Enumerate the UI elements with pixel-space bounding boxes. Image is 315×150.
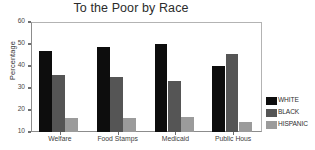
legend-label-hispanic: HISPANIC xyxy=(278,120,308,127)
x-axis-label-welfare: Welfare xyxy=(30,135,90,142)
bar-black-medicaid xyxy=(168,81,181,132)
bar-group xyxy=(97,22,137,132)
bar-white-medicaid xyxy=(155,44,168,132)
legend-swatch-black xyxy=(266,109,277,117)
bars-layer xyxy=(31,22,262,132)
bar-hispanic-welfare xyxy=(65,118,78,132)
legend-label-black: BLACK xyxy=(278,108,299,115)
bar-group xyxy=(155,22,195,132)
legend-label-white: WHITE xyxy=(278,96,299,103)
bar-white-welfare xyxy=(39,51,52,132)
legend-swatch-hispanic xyxy=(266,121,277,129)
y-tick-label: 10 xyxy=(9,127,25,134)
bar-black-welfare xyxy=(52,75,65,132)
bar-group xyxy=(39,22,79,132)
bar-group xyxy=(212,22,252,132)
bar-white-public-hous xyxy=(212,66,225,132)
bar-hispanic-public-hous xyxy=(239,122,252,132)
x-axis-label-food-stamps: Food Stamps xyxy=(88,135,148,142)
bar-hispanic-medicaid xyxy=(181,117,194,132)
y-tick-label: 60 xyxy=(9,17,25,24)
y-tick-label: 50 xyxy=(9,39,25,46)
y-tick-label: 40 xyxy=(9,61,25,68)
legend-swatch-white xyxy=(266,97,277,105)
bar-black-food-stamps xyxy=(110,77,123,132)
y-tick-label: 20 xyxy=(9,105,25,112)
bar-white-food-stamps xyxy=(97,47,110,132)
y-tick-label: 30 xyxy=(9,83,25,90)
bar-hispanic-food-stamps xyxy=(123,118,136,132)
bar-chart: To the Poor by Race Percentage 102030405… xyxy=(0,0,315,150)
chart-title: To the Poor by Race xyxy=(0,1,262,15)
x-axis-label-public-hous: Public Hous xyxy=(203,135,263,142)
x-axis-label-medicaid: Medicaid xyxy=(145,135,205,142)
bar-black-public-hous xyxy=(226,54,239,132)
